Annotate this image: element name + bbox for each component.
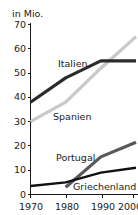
series-label-griechenland: Griechenland [73, 181, 136, 192]
x-label-1970: 1970 [19, 201, 43, 212]
y-label-20: 20 [14, 140, 26, 151]
y-axis-unit-label: in Mio. [12, 8, 43, 19]
y-label-10: 10 [14, 164, 26, 175]
x-label-1990: 1990 [91, 201, 115, 212]
y-label-50: 50 [14, 67, 26, 78]
y-label-30: 30 [14, 116, 26, 127]
y-label-40: 40 [14, 91, 26, 102]
x-label-1980: 1980 [55, 201, 79, 212]
chart-canvas: in Mio. 70 60 50 40 30 20 10 0 [0, 0, 138, 215]
x-axis-ticks [31, 195, 134, 199]
series-line-spanien[interactable] [31, 37, 137, 122]
series-label-italien: Italien [58, 58, 88, 69]
y-label-70: 70 [14, 19, 26, 30]
series-label-spanien: Spanien [53, 111, 91, 122]
y-label-0: 0 [20, 189, 26, 200]
line-chart-container: in Mio. 70 60 50 40 30 20 10 0 [0, 0, 138, 215]
series-label-portugal: Portugal [56, 152, 95, 163]
x-label-2000: 2000 [118, 201, 138, 212]
y-label-60: 60 [14, 43, 26, 54]
x-axis-tick-labels: 1970 1980 1990 2000 [19, 201, 138, 212]
y-axis-tick-labels: 70 60 50 40 30 20 10 0 [14, 19, 26, 200]
